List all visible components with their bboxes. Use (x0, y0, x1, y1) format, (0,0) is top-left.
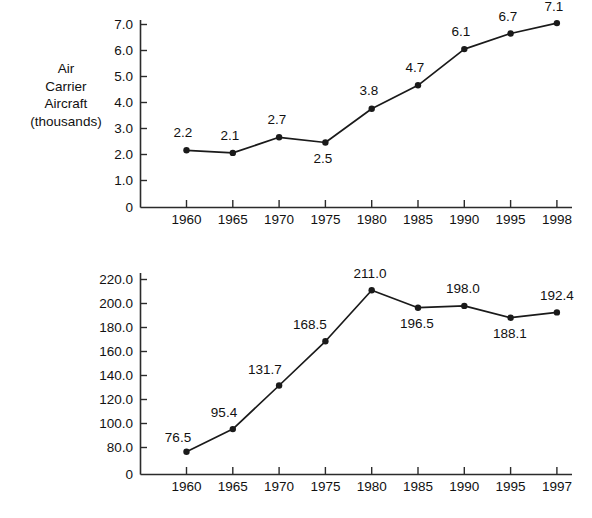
y-axis-ticks (141, 280, 148, 448)
chart-panel-general-aviation: 220.0 200.0 180.0 160.0 140.0 120.0 100.… (0, 255, 592, 518)
data-point-label: 196.5 (400, 316, 434, 331)
data-point-label: 2.7 (268, 112, 287, 127)
ytick-label: 140.0 (99, 368, 133, 383)
data-point-label: 211.0 (354, 266, 387, 281)
data-point-markers (183, 287, 560, 455)
xtick-label: 1965 (218, 212, 248, 227)
data-point-label: 131.7 (248, 362, 282, 377)
chart-panel-air-carrier: Air Carrier Aircraft (thousands) 7.0 6.0… (0, 0, 592, 259)
data-point (276, 382, 282, 388)
ytick-label: 200.0 (99, 296, 133, 311)
data-point (554, 20, 560, 26)
data-point-label: 168.5 (293, 317, 327, 332)
data-point (415, 82, 421, 88)
data-point-label: 188.1 (493, 326, 527, 341)
plot-area-air-carrier: 7.0 6.0 5.0 4.0 3.0 2.0 1.0 0 (0, 0, 592, 259)
y-axis-ticks (141, 25, 148, 181)
data-point-label: 95.4 (211, 405, 238, 420)
ytick-label: 4.0 (114, 95, 133, 110)
xtick-label: 1960 (171, 212, 201, 227)
ytick-label: 2.0 (114, 147, 133, 162)
data-point (461, 303, 467, 309)
xtick-label: 1985 (403, 212, 433, 227)
ytick-label: 120.0 (99, 392, 133, 407)
ytick-label: 160.0 (99, 344, 133, 359)
data-point (230, 426, 236, 432)
aircraft-fleet-figure: Air Carrier Aircraft (thousands) 7.0 6.0… (0, 0, 592, 518)
xtick-label: 1990 (449, 212, 479, 227)
ytick-label: 5.0 (114, 69, 133, 84)
xtick-label: 1997 (542, 479, 572, 494)
data-point-label: 6.1 (452, 24, 471, 39)
xtick-label: 1995 (496, 212, 526, 227)
data-point (183, 147, 189, 153)
xtick-label: 1985 (403, 479, 433, 494)
data-point-label: 7.1 (545, 0, 564, 14)
xtick-label: 1970 (264, 212, 294, 227)
xtick-label: 1980 (357, 479, 387, 494)
data-point-label: 198.0 (446, 281, 480, 296)
ytick-label: 3.0 (114, 121, 133, 136)
data-point-label: 4.7 (406, 60, 425, 75)
ytick-label: 180.0 (99, 320, 133, 335)
ytick-label: 0 (125, 467, 133, 482)
ytick-label: 80.0 (107, 440, 133, 455)
data-point (230, 150, 236, 156)
x-axis-ticks (187, 467, 557, 475)
ytick-label: 1.0 (114, 173, 133, 188)
data-point (276, 134, 282, 140)
ytick-label: 100.0 (99, 416, 133, 431)
ytick-label: 7.0 (114, 17, 133, 32)
data-point-label: 192.4 (540, 288, 574, 303)
xtick-label: 1975 (310, 212, 340, 227)
xtick-label: 1960 (171, 479, 201, 494)
ytick-label: 220.0 (99, 272, 133, 287)
data-point-label: 6.7 (499, 9, 518, 24)
data-point-label: 2.2 (174, 125, 193, 140)
data-point-label: 76.5 (165, 430, 191, 445)
data-point (507, 315, 513, 321)
xtick-label: 1995 (496, 479, 526, 494)
x-axis-ticks (187, 200, 557, 208)
xtick-label: 1975 (310, 479, 340, 494)
xtick-label: 1990 (449, 479, 479, 494)
plot-area-general-aviation: 220.0 200.0 180.0 160.0 140.0 120.0 100.… (0, 255, 592, 518)
data-point (415, 305, 421, 311)
ytick-label: 0 (125, 200, 133, 215)
data-point (369, 287, 375, 293)
xtick-label: 1970 (264, 479, 294, 494)
xtick-label: 1980 (357, 212, 387, 227)
data-point-label: 3.8 (360, 83, 379, 98)
series-line-general-aviation (187, 290, 557, 451)
ytick-label: 6.0 (114, 43, 133, 58)
data-point (369, 106, 375, 112)
data-point-label: 2.5 (314, 151, 333, 166)
xtick-label: 1998 (542, 212, 572, 227)
data-point (461, 46, 467, 52)
data-point (183, 449, 189, 455)
data-point (507, 30, 513, 36)
data-point (322, 338, 328, 344)
data-point (554, 309, 560, 315)
xtick-label: 1965 (218, 479, 248, 494)
data-point (322, 139, 328, 145)
data-point-label: 2.1 (221, 128, 240, 143)
